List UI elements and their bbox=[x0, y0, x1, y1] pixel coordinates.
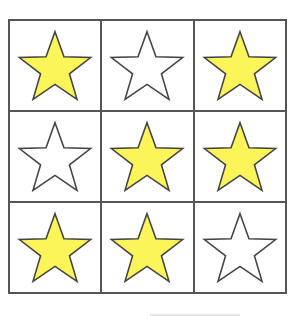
star-icon-yellow bbox=[16, 209, 94, 287]
grid-cell-r1c1 bbox=[9, 20, 101, 111]
grid-cell-r3c2 bbox=[101, 202, 193, 293]
grid-cell-r1c3 bbox=[194, 20, 286, 111]
star-icon-yellow bbox=[108, 209, 186, 287]
star-grid bbox=[8, 19, 287, 294]
grid-cell-r1c2 bbox=[101, 20, 193, 111]
star-icon-yellow bbox=[201, 27, 279, 105]
grid-cell-r3c1 bbox=[9, 202, 101, 293]
star-icon-yellow bbox=[16, 27, 94, 105]
star-icon-yellow bbox=[108, 118, 186, 196]
grid-cell-r2c3 bbox=[194, 111, 286, 202]
star-icon-white bbox=[108, 27, 186, 105]
grid-cell-r2c1 bbox=[9, 111, 101, 202]
star-icon-white bbox=[16, 118, 94, 196]
grid-cell-r2c2 bbox=[101, 111, 193, 202]
grid-cell-r3c3 bbox=[194, 202, 286, 293]
star-icon-yellow bbox=[201, 118, 279, 196]
star-icon-white bbox=[201, 209, 279, 287]
